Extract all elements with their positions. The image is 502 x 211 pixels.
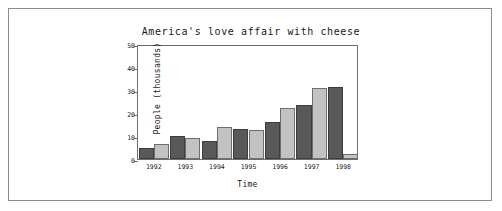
x-tick-label: 1998 xyxy=(335,163,351,171)
bar xyxy=(139,148,154,160)
bar xyxy=(233,129,248,159)
bar xyxy=(170,136,185,159)
bar xyxy=(280,108,295,159)
bar xyxy=(296,105,311,159)
x-tick-label: 1996 xyxy=(272,163,288,171)
bar xyxy=(312,88,327,159)
bar xyxy=(343,154,358,159)
y-axis-title: People (thousands) xyxy=(153,29,162,149)
bar xyxy=(202,141,217,159)
y-tick-label: 20 xyxy=(127,111,135,119)
y-tick-label: 50 xyxy=(127,42,135,50)
chart-title: America's love affair with cheese xyxy=(0,26,502,37)
plot-area: 01020304050 1992199319941995199619971998… xyxy=(137,45,358,160)
x-tick-label: 1992 xyxy=(146,163,162,171)
bar xyxy=(185,138,200,159)
y-tick-label: 40 xyxy=(127,65,135,73)
bar xyxy=(328,87,343,159)
x-tick-label: 1994 xyxy=(209,163,225,171)
bar xyxy=(265,122,280,159)
x-tick-label: 1993 xyxy=(178,163,194,171)
plot-inner: 01020304050 1992199319941995199619971998 xyxy=(138,46,357,159)
bar xyxy=(249,130,264,159)
x-tick-label: 1995 xyxy=(241,163,257,171)
bar xyxy=(217,127,232,159)
chart-figure: America's love affair with cheese 010203… xyxy=(0,0,502,211)
x-axis-title: Time xyxy=(137,180,358,189)
y-tick-label: 0 xyxy=(131,157,135,165)
y-tick-label: 30 xyxy=(127,88,135,96)
x-tick-label: 1997 xyxy=(304,163,320,171)
y-tick-label: 10 xyxy=(127,134,135,142)
